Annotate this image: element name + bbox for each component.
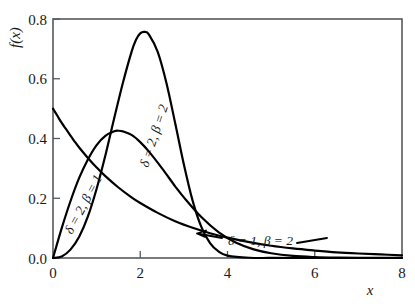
y-tick-label-3: 0.6 xyxy=(28,71,47,87)
x-axis-title: x xyxy=(366,282,374,298)
y-axis-ticks xyxy=(53,19,60,258)
x-tick-label-1: 2 xyxy=(137,265,145,281)
curve-delta2-beta2 xyxy=(53,32,402,258)
curves-group xyxy=(53,32,402,258)
y-tick-label-2: 0.4 xyxy=(28,131,47,147)
y-tick-label-1: 0.2 xyxy=(28,191,47,207)
x-tick-label-0: 0 xyxy=(49,265,57,281)
x-tick-label-4: 8 xyxy=(398,265,406,281)
x-tick-label-3: 6 xyxy=(311,265,319,281)
y-tick-label-4: 0.8 xyxy=(28,12,47,28)
y-axis-title: f(x) xyxy=(7,27,24,48)
weibull-pdf-plot: 0.0 0.2 0.4 0.6 0.8 0 2 4 6 8 f(x) x δ =… xyxy=(0,0,415,304)
x-tick-label-2: 4 xyxy=(224,265,232,281)
curve-label-delta1-beta2: δ = 1, β = 2 xyxy=(228,233,293,248)
curve-label-delta2-beta2: δ = 2, β = 2 xyxy=(137,102,171,169)
plot-frame xyxy=(53,19,402,258)
chart-figure: 0.0 0.2 0.4 0.6 0.8 0 2 4 6 8 f(x) x δ =… xyxy=(0,0,415,304)
y-tick-label-0: 0.0 xyxy=(28,251,47,267)
